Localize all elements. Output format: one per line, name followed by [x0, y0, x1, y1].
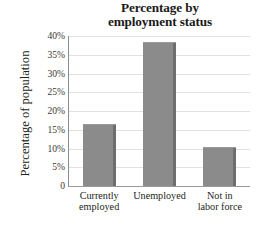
bar: [83, 124, 116, 186]
y-tick-label: 30%: [35, 69, 65, 79]
chart-title-line-2: employment status: [60, 15, 260, 29]
bar: [143, 42, 176, 186]
gridline: [69, 36, 250, 37]
plot-area: [69, 36, 250, 186]
chart-title-line-1: Percentage by: [60, 1, 260, 15]
y-axis-title: Percentage of population: [19, 24, 32, 204]
y-tick-label: 35%: [35, 50, 65, 60]
x-category-label-line: labor force: [180, 201, 260, 212]
x-category-label: Not inlabor force: [180, 190, 260, 213]
y-tick-label: 25%: [35, 87, 65, 97]
bar-edge-shadow: [113, 125, 116, 186]
bar-chart-figure: Percentage by employment status Percenta…: [0, 0, 268, 227]
y-tick-label: 15%: [35, 125, 65, 135]
y-tick-label: 20%: [35, 106, 65, 116]
bar: [203, 147, 236, 186]
x-axis-line: [68, 186, 250, 187]
bar-edge-shadow: [233, 148, 236, 186]
x-category-label-line: Not in: [180, 190, 260, 201]
y-tick-label: 5%: [35, 162, 65, 172]
x-category-label-line: employed: [59, 201, 139, 212]
y-tick-label: 10%: [35, 144, 65, 154]
bar-edge-shadow: [173, 43, 176, 186]
chart-title: Percentage by employment status: [60, 1, 260, 29]
y-tick-label: 40%: [35, 31, 65, 41]
